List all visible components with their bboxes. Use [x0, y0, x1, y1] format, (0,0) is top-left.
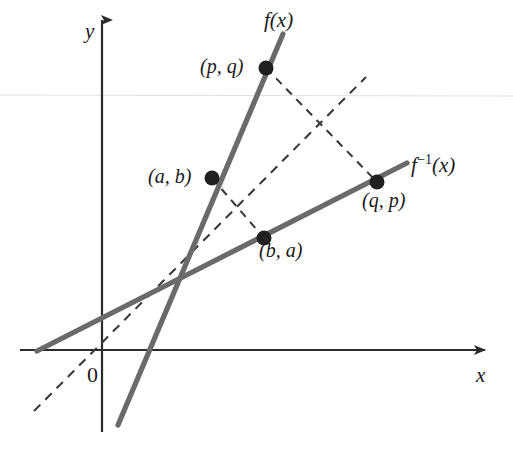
connector-pq-to-qp	[266, 68, 377, 182]
inverse-function-figure: y x 0 f(x) f−1(x) (a, b) (p, q) (b, a) (…	[0, 0, 513, 457]
point-label-b-a: (b, a)	[259, 240, 302, 260]
curve-f-inverse	[37, 163, 407, 351]
curve-label-f-inverse: f−1(x)	[411, 152, 455, 176]
point-label-p-q: (p, q)	[200, 56, 243, 76]
point-label-q-p: (q, p)	[362, 190, 405, 210]
curve-label-f: f(x)	[264, 10, 293, 31]
f-inverse-exponent: −1	[417, 151, 432, 167]
identity-line-y-equals-x	[34, 77, 366, 411]
curve-f	[118, 34, 283, 425]
origin-label: 0	[87, 364, 98, 386]
point-q-p	[370, 175, 385, 190]
point-label-a-b: (a, b)	[148, 166, 191, 186]
point-p-q	[259, 61, 274, 76]
f-inverse-argument: (x)	[432, 153, 455, 177]
point-a-b	[205, 171, 220, 186]
x-axis-label: x	[476, 365, 485, 386]
figure-canvas	[0, 0, 513, 457]
y-axis-label: y	[85, 21, 94, 42]
